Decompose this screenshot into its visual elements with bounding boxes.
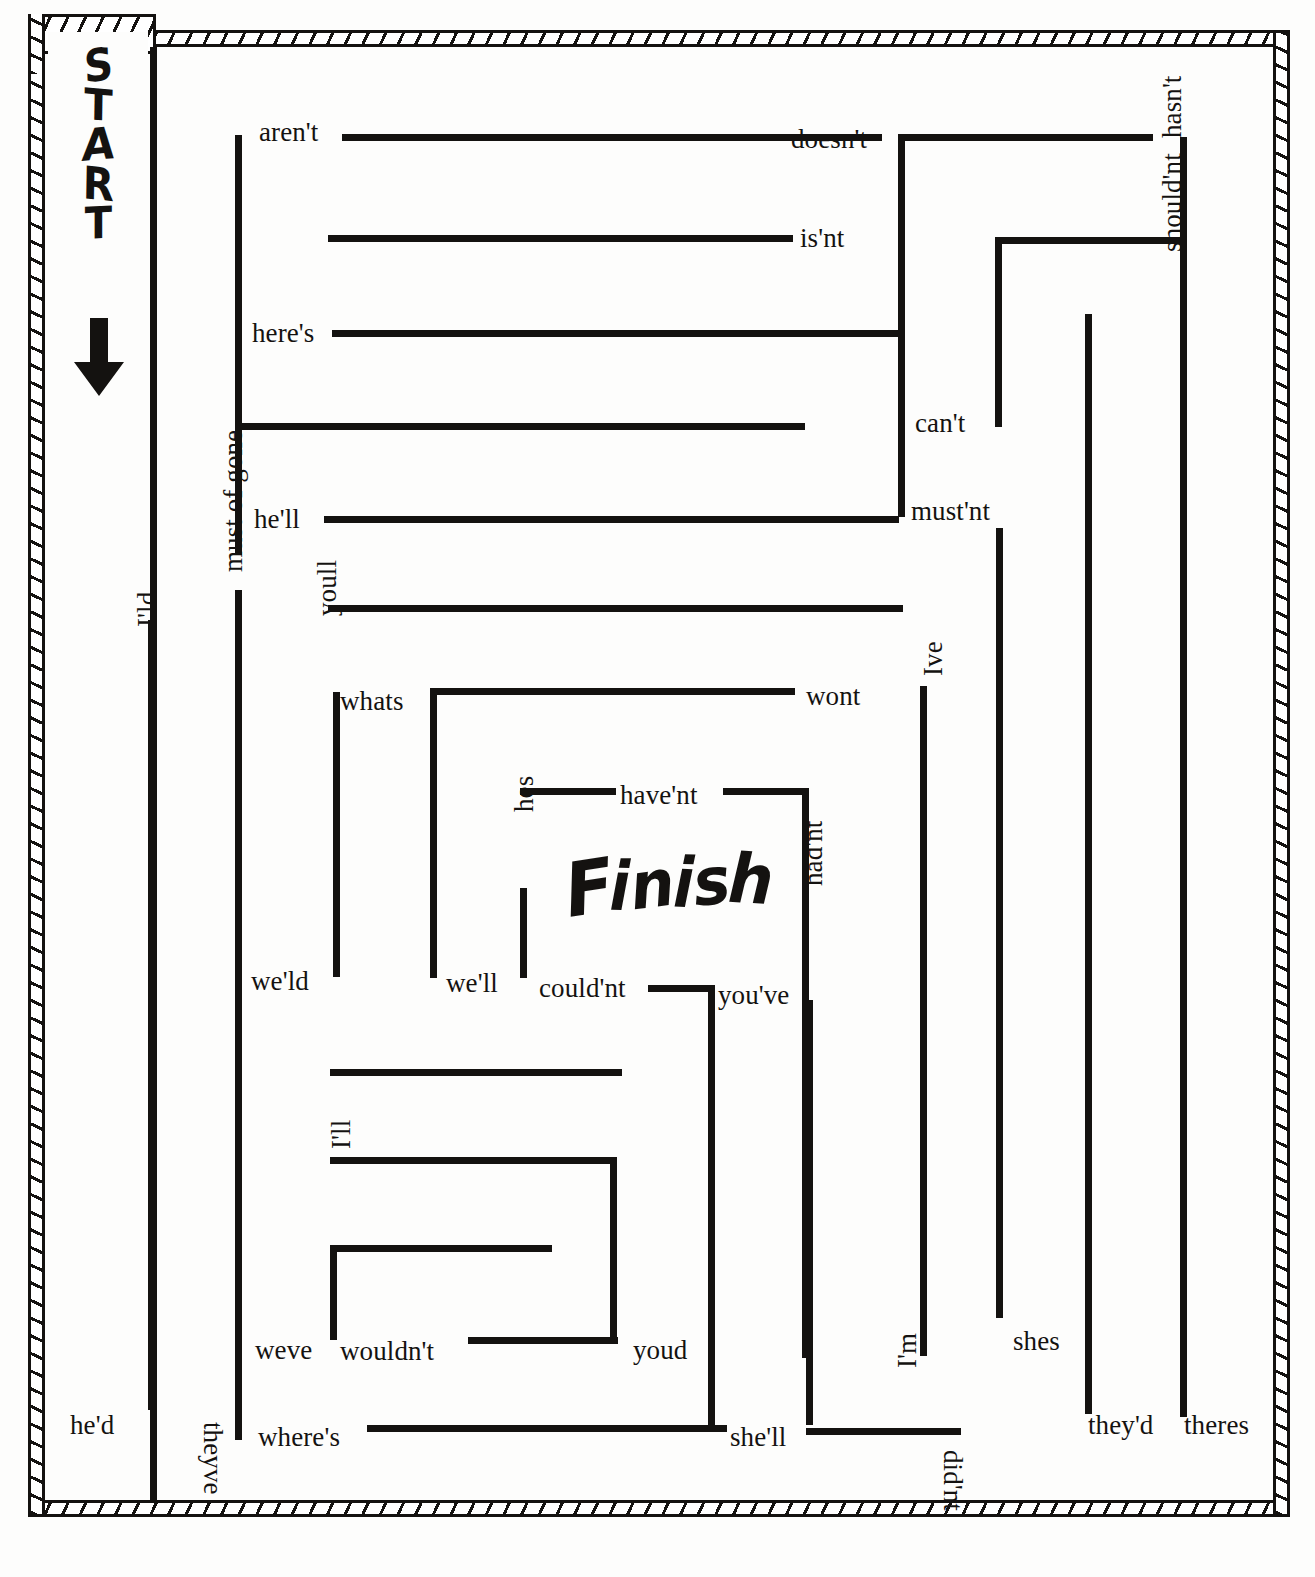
contraction-label: could'nt: [539, 975, 626, 1002]
maze-wall: [1180, 237, 1187, 1417]
contraction-label: doesn't: [791, 126, 867, 153]
contraction-label: I'll: [328, 1120, 355, 1149]
contraction-label: I'm: [894, 1333, 921, 1368]
contraction-label: whats: [340, 688, 404, 715]
contraction-label: theyve: [199, 1422, 226, 1495]
border-left: [28, 30, 45, 1517]
border-bottom: [28, 1500, 1290, 1517]
maze-wall: [996, 528, 1003, 1318]
maze-wall: [235, 423, 805, 430]
maze-wall: [723, 788, 809, 795]
contraction-label: must'nt: [911, 498, 990, 525]
contraction-label: have'nt: [620, 782, 698, 809]
contraction-label: hes: [511, 776, 538, 812]
contraction-label: where's: [258, 1424, 340, 1451]
contraction-label: weve: [255, 1337, 312, 1364]
maze-wall: [333, 692, 340, 977]
maze-wall: [920, 686, 927, 1356]
contraction-label: we'll: [446, 970, 498, 997]
finish-label: Finish: [566, 842, 774, 926]
contraction-label: I'ld: [134, 592, 161, 627]
maze-wall: [332, 330, 902, 337]
contraction-label: is'nt: [800, 225, 844, 252]
border-top: [28, 30, 1290, 47]
down-arrow-icon: [68, 318, 130, 396]
border-right: [1273, 30, 1290, 1517]
maze-wall: [328, 235, 793, 242]
contraction-label: shes: [1013, 1328, 1060, 1355]
maze-wall: [330, 1245, 552, 1252]
maze-wall: [330, 1245, 337, 1340]
contraction-label: did'nt: [939, 1450, 966, 1511]
contraction-label: had'nt: [800, 821, 827, 886]
contraction-label: Ive: [920, 641, 947, 676]
maze-wall: [148, 620, 155, 1410]
start-label: START: [70, 46, 128, 244]
contraction-label: we'ld: [251, 968, 309, 995]
maze-wall: [328, 605, 903, 612]
maze-wall: [648, 985, 714, 992]
maze-wall: [330, 1157, 617, 1164]
contraction-label: he'd: [70, 1412, 114, 1439]
contraction-label: wouldn't: [340, 1338, 434, 1365]
contraction-label: he'll: [254, 506, 300, 533]
start-letter: T: [70, 201, 128, 248]
maze-wall: [806, 1000, 813, 1425]
maze-wall: [324, 516, 899, 523]
maze-worksheet-page: aren'tdoesn'thasn'tis'ntshould'nthere'sc…: [0, 0, 1315, 1577]
maze-wall: [367, 1425, 727, 1432]
maze-wall: [430, 688, 795, 695]
contraction-label: hasn't: [1159, 76, 1186, 138]
contraction-label: she'll: [730, 1424, 786, 1451]
maze-wall: [898, 134, 1153, 141]
contraction-label: here's: [252, 320, 314, 347]
contraction-label: can't: [915, 410, 965, 437]
finish-letter: n: [625, 844, 677, 925]
contraction-label: aren't: [259, 119, 318, 146]
contraction-label: youll: [314, 560, 341, 616]
start-corridor-side: [28, 14, 45, 74]
contraction-label: youd: [633, 1337, 687, 1364]
contraction-label: must of gone: [220, 430, 247, 572]
finish-letter: h: [726, 838, 774, 920]
maze-wall: [806, 1428, 961, 1435]
contraction-label: they'd: [1088, 1412, 1153, 1439]
maze-wall: [898, 137, 905, 517]
maze-wall: [1085, 314, 1092, 1414]
maze-wall: [995, 237, 1002, 427]
maze-wall: [430, 688, 437, 978]
maze-wall: [708, 985, 715, 1430]
maze-wall: [610, 1157, 617, 1342]
contraction-label: you've: [718, 982, 789, 1009]
contraction-label: theres: [1184, 1412, 1249, 1439]
maze-wall: [520, 888, 527, 978]
maze-wall: [330, 1069, 622, 1076]
maze-wall: [468, 1337, 618, 1344]
contraction-label: should'nt: [1159, 153, 1186, 252]
maze-wall: [235, 590, 242, 1440]
contraction-label: wont: [806, 683, 860, 710]
